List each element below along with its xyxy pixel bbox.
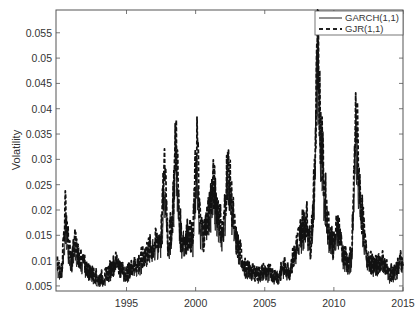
volatility-chart: 0.0050.010.0150.020.0250.030.0350.040.04… bbox=[0, 0, 420, 315]
y-axis-label: Volatility bbox=[10, 129, 22, 170]
y-tick-label: 0.01 bbox=[32, 255, 53, 267]
y-tick-label: 0.055 bbox=[26, 27, 52, 39]
y-tick-label: 0.045 bbox=[26, 77, 52, 89]
legend: GARCH(1,1) GJR(1,1) bbox=[315, 11, 403, 35]
x-tick-label: 2000 bbox=[184, 297, 208, 309]
y-tick-label: 0.005 bbox=[26, 280, 52, 292]
legend-label-garch: GARCH(1,1) bbox=[345, 12, 399, 23]
y-tick-label: 0.04 bbox=[32, 103, 53, 115]
y-tick-label: 0.015 bbox=[26, 229, 52, 241]
y-tick-label: 0.05 bbox=[32, 52, 53, 64]
y-tick-label: 0.03 bbox=[32, 153, 53, 165]
x-tick-label: 1995 bbox=[115, 297, 139, 309]
plot-frame bbox=[56, 10, 403, 291]
y-tick-label: 0.035 bbox=[26, 128, 52, 140]
x-tick-label: 2010 bbox=[322, 297, 346, 309]
legend-label-gjr: GJR(1,1) bbox=[345, 23, 384, 34]
y-tick-label: 0.02 bbox=[32, 204, 53, 216]
x-tick-label: 2015 bbox=[391, 297, 415, 309]
plot-area: 0.0050.010.0150.020.0250.030.0350.040.04… bbox=[26, 10, 415, 309]
y-tick-label: 0.025 bbox=[26, 179, 52, 191]
x-tick-label: 2005 bbox=[253, 297, 277, 309]
